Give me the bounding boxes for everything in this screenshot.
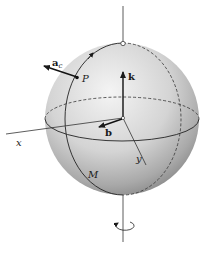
k-vector-label: k	[128, 71, 136, 82]
ac-subscript: c	[58, 62, 62, 70]
sphere-diagram: x y k b P ac M	[0, 0, 212, 256]
b-vector-label: b	[105, 127, 112, 138]
body-label-m: M	[87, 169, 99, 180]
point-p	[75, 76, 79, 80]
ac-vector-label: ac	[52, 57, 62, 70]
x-axis-label: x	[16, 137, 22, 148]
point-p-label: P	[81, 73, 89, 84]
rotation-arrow-icon	[116, 222, 134, 230]
y-axis-label: y	[135, 153, 142, 164]
north-pole-marker	[121, 41, 125, 45]
